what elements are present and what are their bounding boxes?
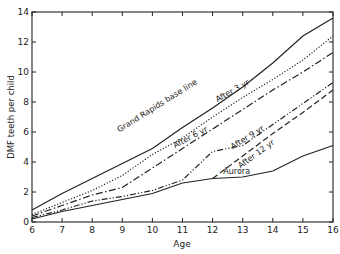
plot-frame — [32, 12, 333, 222]
series-line-2 — [32, 53, 333, 217]
x-tick-label: 8 — [89, 225, 95, 235]
y-tick-label: 10 — [18, 67, 30, 77]
y-tick-label: 6 — [23, 127, 29, 137]
line-label-5: Aurora — [223, 167, 250, 176]
x-tick-label: 6 — [29, 225, 35, 235]
x-tick-label: 15 — [297, 225, 308, 235]
x-tick-label: 10 — [147, 225, 159, 235]
series-line-4 — [213, 90, 333, 179]
line-label-2: After 6 yr — [172, 124, 210, 150]
x-tick-label: 13 — [237, 225, 248, 235]
series-lines — [32, 18, 333, 219]
x-tick-label: 11 — [177, 225, 188, 235]
x-tick-label: 14 — [267, 225, 279, 235]
x-tick-label: 9 — [119, 225, 125, 235]
x-tick-label: 16 — [327, 225, 339, 235]
y-tick-label: 0 — [23, 217, 29, 227]
y-tick-label: 8 — [23, 97, 29, 107]
series-line-3 — [32, 83, 333, 218]
line-labels: Grand Rapids base lineAfter 3 yrAfter 6 … — [115, 77, 276, 176]
x-tick-label: 7 — [59, 225, 65, 235]
dmf-teeth-line-chart: 678910111213141516 02468101214 Grand Rap… — [0, 0, 340, 254]
x-axis-label: Age — [173, 239, 191, 249]
series-line-1 — [32, 36, 333, 215]
y-axis-label: DMF teeth per child — [6, 75, 16, 159]
x-tick-label: 12 — [207, 225, 218, 235]
y-tick-label: 2 — [23, 187, 29, 197]
line-label-1: After 3 yr — [214, 77, 252, 104]
series-line-5 — [32, 146, 333, 220]
y-tick-label: 14 — [18, 7, 30, 17]
y-tick-label: 4 — [23, 157, 29, 167]
plot-border — [32, 12, 333, 222]
y-tick-label: 12 — [18, 37, 29, 47]
y-axis: 02468101214 — [18, 7, 333, 227]
